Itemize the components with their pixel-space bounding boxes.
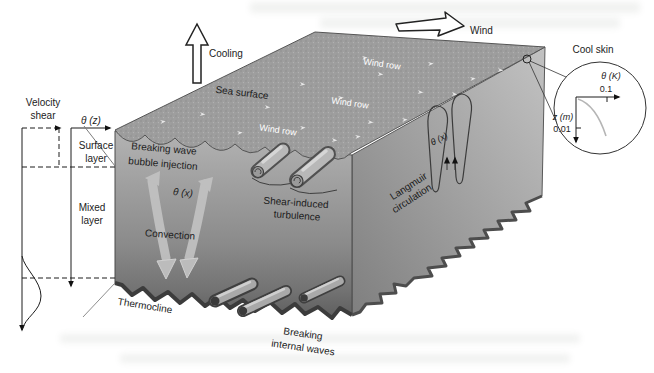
mixed-layer-label-line2: layer (81, 215, 103, 226)
inset-y-axis-label: z (m) (552, 112, 574, 122)
theta-z-label: θ (z) (81, 115, 101, 126)
wind-label: Wind (470, 25, 493, 36)
cool-skin-label: Cool skin (572, 44, 613, 55)
velocity-shear-label-line2: shear (30, 110, 56, 121)
inset-circle (554, 62, 646, 154)
velocity-shear-plot (22, 128, 60, 330)
wind-arrow-icon (396, 12, 464, 36)
inset-x-tick-label: 0.1 (600, 84, 613, 94)
inset-y-tick-label: 0.01 (553, 124, 571, 134)
figure-ocean-mixed-layer-diagram: Cooling Wind Sea surface Wind row Wind r… (0, 0, 654, 373)
surface-layer-label-line2: layer (85, 153, 107, 164)
diagram-canvas: Cooling Wind Sea surface Wind row Wind r… (0, 0, 654, 373)
box-corner-hint-line (83, 283, 115, 317)
cooling-label: Cooling (209, 48, 243, 59)
cooling-arrow-icon (186, 24, 208, 83)
surface-layer-label-line1: Surface (79, 140, 114, 151)
velocity-shear-label-line1: Velocity (26, 97, 60, 108)
theta-x-front-label: θ (x) (173, 186, 194, 199)
mixed-layer-label-line1: Mixed (79, 202, 106, 213)
breaking-internal-label-line2: internal waves (271, 338, 336, 358)
velocity-profile-curve (22, 256, 41, 330)
inset-x-axis-label: θ (K) (601, 71, 620, 81)
thermocline-label: Thermocline (117, 296, 173, 316)
